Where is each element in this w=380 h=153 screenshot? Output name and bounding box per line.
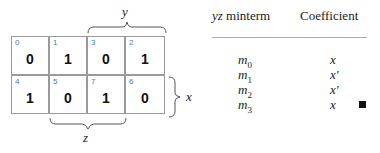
- cell-index: 3: [91, 38, 95, 47]
- cell-value: 0: [88, 51, 124, 67]
- kmap-cell-1: 11: [49, 36, 87, 75]
- coef-m1: x′: [330, 67, 339, 83]
- cell-value: 0: [50, 90, 86, 106]
- kmap-cell-6: 60: [125, 75, 165, 114]
- end-of-proof-icon: [359, 101, 366, 108]
- karnaugh-map: 00 11 30 21 41 50 71 60: [11, 36, 165, 114]
- kmap-cell-3: 30: [87, 36, 125, 75]
- label-y: y: [122, 4, 128, 20]
- cell-value: 1: [88, 90, 124, 106]
- brace-x-icon: [168, 76, 182, 118]
- cell-value: 0: [12, 51, 48, 67]
- coef-m2: x′: [330, 82, 339, 98]
- cell-index: 6: [129, 77, 133, 86]
- cell-index: 0: [15, 38, 19, 47]
- header-rule: [212, 37, 367, 38]
- cell-value: 1: [126, 51, 164, 67]
- cell-index: 7: [91, 77, 95, 86]
- cell-index: 2: [129, 38, 133, 47]
- kmap-cell-5: 50: [49, 75, 87, 114]
- minterm-m3: m3: [238, 97, 252, 115]
- cell-index: 5: [53, 77, 57, 86]
- brace-y-icon: [86, 20, 168, 34]
- cell-value: 0: [126, 90, 164, 106]
- label-x: x: [186, 89, 192, 105]
- kmap-cell-2: 21: [125, 36, 165, 75]
- label-z: z: [83, 130, 88, 146]
- cell-index: 4: [15, 77, 19, 86]
- kmap-cell-4: 41: [11, 75, 49, 114]
- brace-z-icon: [48, 117, 128, 131]
- cell-value: 1: [12, 90, 48, 106]
- kmap-cell-0: 00: [11, 36, 49, 75]
- header-coefficient: Coefficient: [300, 8, 358, 24]
- coef-m0: x: [330, 52, 336, 68]
- kmap-cell-7: 71: [87, 75, 125, 114]
- header-yz-minterm: yz minterm: [212, 8, 270, 24]
- cell-index: 1: [53, 38, 57, 47]
- coef-m3: x: [330, 97, 336, 113]
- cell-value: 1: [50, 51, 86, 67]
